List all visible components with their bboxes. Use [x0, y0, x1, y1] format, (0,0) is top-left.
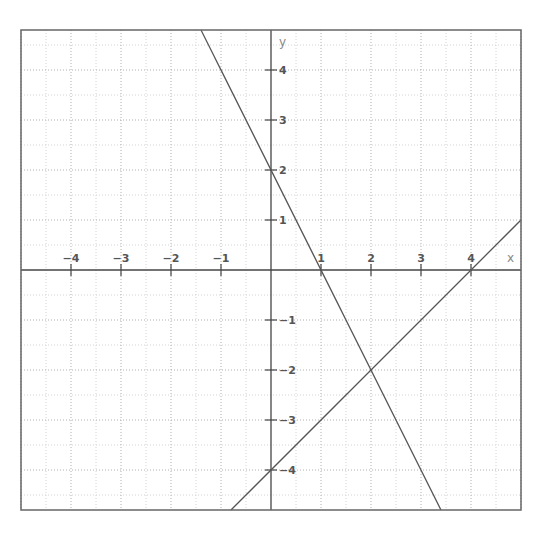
x-tick-label: −2: [163, 252, 180, 265]
x-tick-label: −4: [63, 252, 80, 265]
line-2: [231, 220, 521, 510]
y-tick-label: −2: [279, 364, 296, 377]
y-tick-label: 4: [279, 64, 287, 77]
x-tick-label: −1: [213, 252, 230, 265]
y-tick-label: −1: [279, 314, 296, 327]
y-tick-label: 2: [279, 164, 287, 177]
x-tick-label: 4: [467, 252, 475, 265]
y-tick-label: −4: [279, 464, 296, 477]
x-axis-label: x: [507, 251, 514, 265]
x-tick-label: 2: [367, 252, 375, 265]
x-tick-label: 3: [417, 252, 425, 265]
y-axis-label: y: [279, 35, 286, 49]
y-tick-label: 1: [279, 214, 287, 227]
y-tick-label: 3: [279, 114, 287, 127]
y-tick-label: −3: [279, 414, 296, 427]
x-tick-label: 1: [317, 252, 325, 265]
x-tick-label: −3: [113, 252, 130, 265]
coordinate-plane: −4−3−2−112344321−1−2−3−4 x y: [0, 0, 542, 535]
